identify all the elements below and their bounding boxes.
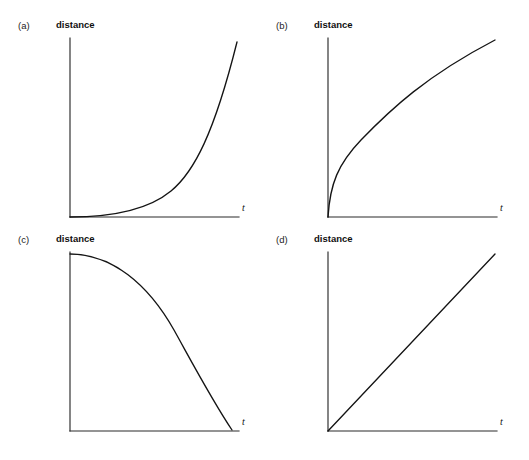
panel-a-plot [8, 14, 258, 226]
panel-d-plot [266, 228, 516, 440]
panel-d-curve [328, 254, 495, 431]
panel-c: (c) distance t [8, 228, 258, 440]
panel-c-plot [8, 228, 258, 440]
panel-d: (d) distance t [266, 228, 516, 440]
panel-b-plot [266, 14, 516, 226]
panel-a-curve [70, 42, 237, 217]
panel-a: (a) distance t [8, 14, 258, 226]
panel-c-curve [70, 254, 232, 430]
panel-b-curve [328, 40, 495, 217]
figure-grid: (a) distance t (b) distance t (c) distan… [0, 14, 529, 460]
panel-b: (b) distance t [266, 14, 516, 226]
clipped-header-text [40, 0, 460, 3]
